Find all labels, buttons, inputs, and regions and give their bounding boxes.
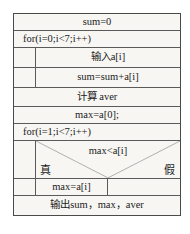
row-for-outer: for(i=0;i<7;i++) <box>14 31 180 48</box>
condition-expression: max<a[i] <box>36 146 180 157</box>
condition-false-label: 假 <box>164 165 175 176</box>
nest-body-accum: sum=sum+a[i] <box>36 68 180 87</box>
row-accumulate: sum=sum+a[i] <box>14 68 180 88</box>
loop-gutter <box>14 48 36 67</box>
loop-gutter <box>14 179 36 195</box>
accumulate-text: sum=sum+a[i] <box>36 72 180 83</box>
condition-block: max<a[i] 真 假 <box>36 141 180 178</box>
row-condition: max<a[i] 真 假 <box>14 141 180 179</box>
condition-true-label: 真 <box>40 165 51 176</box>
nest-wrapper-condition: max<a[i] 真 假 <box>14 141 180 178</box>
row-calc-aver: 计算 aver <box>14 88 180 107</box>
branch-true-cell: max=a[i] <box>36 179 108 195</box>
nest-wrapper-accum: sum=sum+a[i] <box>14 68 180 87</box>
row-init-sum: sum=0 <box>14 14 180 31</box>
loop-gutter <box>14 141 36 178</box>
init-max-text: max=a[0]; <box>14 110 180 121</box>
nest-body-branch: max=a[i] <box>36 179 180 195</box>
for-second-text: for(i=1;i<7;i++) <box>14 127 180 138</box>
branch-false-cell <box>108 179 180 195</box>
nest-wrapper-input: 输入a[i] <box>14 48 180 67</box>
nest-wrapper-branch: max=a[i] <box>14 179 180 195</box>
input-a-text: 输入a[i] <box>36 52 180 63</box>
nest-body-input: 输入a[i] <box>36 48 180 67</box>
branch-split: max=a[i] <box>36 179 180 195</box>
output-text: 输出sum，max，aver <box>14 200 180 211</box>
for-outer-text: for(i=0;i<7;i++) <box>14 34 180 45</box>
branch-true-text: max=a[i] <box>52 182 91 193</box>
row-output: 输出sum，max，aver <box>14 196 180 215</box>
calc-aver-text: 计算 aver <box>14 92 180 103</box>
loop-gutter <box>14 68 36 87</box>
row-init-max: max=a[0]; <box>14 107 180 124</box>
ns-flowchart-diagram: sum=0 for(i=0;i<7;i++) 输入a[i] sum=sum+a[… <box>13 13 181 216</box>
row-input-a: 输入a[i] <box>14 48 180 68</box>
init-sum-text: sum=0 <box>14 17 180 28</box>
row-branch-bodies: max=a[i] <box>14 179 180 196</box>
row-for-second: for(i=1;i<7;i++) <box>14 124 180 141</box>
